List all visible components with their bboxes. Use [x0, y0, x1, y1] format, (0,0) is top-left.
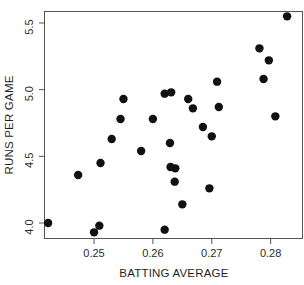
- data-point: [74, 171, 82, 179]
- data-point: [199, 123, 207, 131]
- x-tick-label-2: 0.27: [201, 247, 222, 259]
- data-point: [184, 95, 192, 103]
- data-point: [95, 221, 103, 229]
- data-point: [259, 75, 267, 83]
- data-point: [107, 135, 115, 143]
- data-point: [96, 159, 104, 167]
- data-point: [213, 77, 221, 85]
- data-point: [215, 103, 223, 111]
- data-point: [178, 200, 186, 208]
- data-point: [265, 56, 273, 64]
- x-axis-title: BATTING AVERAGE: [119, 267, 228, 279]
- data-point: [119, 95, 127, 103]
- data-point: [149, 115, 157, 123]
- data-point: [90, 228, 98, 236]
- data-point: [166, 139, 174, 147]
- data-point: [44, 219, 52, 227]
- data-point: [116, 115, 124, 123]
- y-tick-label-2: 5.0: [23, 86, 35, 101]
- y-tick-label-1: 4.5: [23, 153, 35, 168]
- data-point: [205, 184, 213, 192]
- scatter-plot-figure: 0.250.260.270.28 4.04.55.05.5 BATTING AV…: [0, 0, 304, 285]
- data-point: [137, 147, 145, 155]
- x-tick-label-0: 0.25: [83, 247, 104, 259]
- data-point: [167, 88, 175, 96]
- data-point: [171, 164, 179, 172]
- y-tick-label-0: 4.0: [23, 219, 35, 234]
- y-tick-label-3: 5.5: [23, 19, 35, 34]
- data-point: [271, 112, 279, 120]
- data-point: [255, 44, 263, 52]
- plot-svg: 0.250.260.270.28 4.04.55.05.5 BATTING AV…: [0, 0, 304, 285]
- data-point: [208, 132, 216, 140]
- data-point: [160, 225, 168, 233]
- data-point: [189, 104, 197, 112]
- x-tick-label-3: 0.28: [260, 247, 281, 259]
- data-point: [170, 177, 178, 185]
- y-axis-title: RUNS PER GAME: [3, 75, 15, 174]
- figure-background: [0, 0, 304, 285]
- x-tick-label-1: 0.26: [142, 247, 163, 259]
- data-point: [283, 12, 291, 20]
